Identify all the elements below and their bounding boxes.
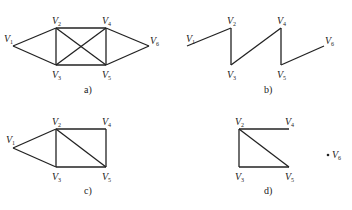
vertex-label-v3: V3 xyxy=(52,69,61,81)
vertex-label-v6: V6 xyxy=(325,35,334,47)
vertex-label-v3: V3 xyxy=(235,171,244,183)
vertex-label-v1: V1 xyxy=(6,134,15,146)
vertex-label-v4: V4 xyxy=(102,15,111,27)
edge-v2-v5 xyxy=(56,129,106,167)
vertex-label-v5: V5 xyxy=(277,69,286,81)
vertex-label-v3: V3 xyxy=(227,69,236,81)
vertex-label-v2: V2 xyxy=(227,15,236,27)
panel-caption: c) xyxy=(84,185,92,197)
edge-v1-v2 xyxy=(13,28,56,46)
panel-d: V2V3V4V5V6d) xyxy=(235,116,341,197)
vertex-label-v3: V3 xyxy=(52,171,61,183)
vertex-label-v4: V4 xyxy=(102,116,111,128)
vertex-label-v4: V4 xyxy=(277,15,286,27)
vertex-label-v1: V1 xyxy=(4,33,13,45)
edge-v2-v5 xyxy=(239,129,289,167)
edge-v5-v6 xyxy=(281,46,324,65)
edge-v1-v2 xyxy=(13,129,56,148)
vertex-label-v5: V5 xyxy=(102,69,111,81)
vertex-label-v4: V4 xyxy=(285,116,294,128)
panel-caption: a) xyxy=(84,84,92,96)
edge-v1-v3 xyxy=(13,46,56,65)
panel-caption: d) xyxy=(264,185,272,197)
panel-a: V1V2V3V4V5V6a) xyxy=(4,15,159,96)
vertex-label-v5: V5 xyxy=(285,171,294,183)
graph-diagram: V1V2V3V4V5V6a)V1V2V3V4V5V6b)V1V2V3V4V5c)… xyxy=(0,0,352,210)
vertex-label-v2: V2 xyxy=(52,15,61,27)
edge-v4-v6 xyxy=(106,28,149,46)
edge-v5-v6 xyxy=(106,46,149,65)
panel-b: V1V2V3V4V5V6b) xyxy=(186,15,334,96)
panel-c: V1V2V3V4V5c) xyxy=(6,116,111,197)
vertex-label-v2: V2 xyxy=(235,116,244,128)
isolated-vertex-dot xyxy=(327,154,330,157)
panel-caption: b) xyxy=(264,84,272,96)
vertex-label-v5: V5 xyxy=(102,171,111,183)
vertex-label-v2: V2 xyxy=(52,116,61,128)
edge-v3-v4 xyxy=(231,28,281,65)
vertex-label-v6: V6 xyxy=(332,149,341,161)
edge-v1-v3 xyxy=(13,148,56,167)
vertex-label-v1: V1 xyxy=(186,33,195,45)
vertex-label-v6: V6 xyxy=(150,35,159,47)
